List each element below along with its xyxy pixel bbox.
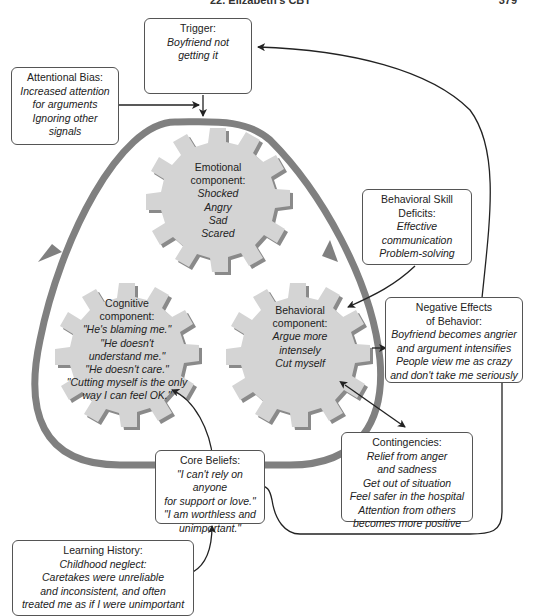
- learning-history-line: and inconsistent, and often: [17, 585, 189, 599]
- negative-effects-title: Negative Effects: [390, 301, 518, 315]
- negative-effects-line: People view me as crazy: [390, 355, 518, 369]
- loop-arrow-left: [38, 244, 62, 262]
- emotional-item: Angry: [168, 201, 268, 214]
- behavioral-item: Cut myself: [255, 357, 345, 370]
- negative-effects-line: and argument intensifies: [390, 342, 518, 356]
- contingencies-line: and sadness: [346, 463, 468, 477]
- trigger-line: getting it: [149, 49, 247, 63]
- attentional-bias-box: Attentional Bias: Increased attention fo…: [11, 67, 119, 145]
- behavioral-gear-label: Behavioral component: Argue more intense…: [255, 304, 345, 370]
- contingencies-line: Feel safer in the hospital: [346, 490, 468, 504]
- cognitive-item: understand me.": [52, 350, 202, 363]
- cognitive-item: "He's blaming me.": [52, 323, 202, 336]
- emotional-gear-label: Emotional component: Shocked Angry Sad S…: [168, 161, 268, 240]
- skill-deficits-line: Effective: [367, 220, 467, 234]
- attentional-bias-title: Attentional Bias:: [16, 71, 114, 85]
- skill-deficits-box: Behavioral Skill Deficits: Effective com…: [362, 189, 472, 265]
- trigger-line: Boyfriend not: [149, 36, 247, 50]
- attentional-bias-line: signals: [16, 125, 114, 139]
- contingencies-line: becomes more positive: [346, 517, 468, 531]
- negative-effects-title: of Behavior:: [390, 315, 518, 329]
- emotional-item: Sad: [168, 214, 268, 227]
- behavioral-item: Argue more: [255, 330, 345, 343]
- contingencies-box: Contingencies: Relief from anger and sad…: [341, 432, 473, 522]
- trigger-title: Trigger:: [149, 22, 247, 36]
- core-beliefs-line: for support or love.": [160, 495, 260, 509]
- core-beliefs-title: Core Beliefs:: [160, 454, 260, 468]
- skill-deficits-title: Deficits:: [367, 207, 467, 221]
- core-beliefs-line: "I can't rely on anyone: [160, 468, 260, 495]
- trigger-box: Trigger: Boyfriend not getting it: [144, 18, 252, 94]
- cognitive-item: "He doesn't: [52, 337, 202, 350]
- cognitive-gear-label: Cognitive component: "He's blaming me." …: [52, 297, 202, 403]
- negative-effects-line: Boyfriend becomes angrier: [390, 328, 518, 342]
- attentional-bias-line: for arguments: [16, 98, 114, 112]
- learning-history-title: Learning History:: [17, 544, 189, 558]
- cognitive-item: "He doesn't care.": [52, 363, 202, 376]
- cognitive-title: component:: [52, 310, 202, 323]
- behavioral-title: component:: [255, 317, 345, 330]
- contingencies-line: Get out of situation: [346, 477, 468, 491]
- core-beliefs-box: Core Beliefs: "I can't rely on anyone fo…: [155, 450, 265, 524]
- core-beliefs-line: "I am worthless and: [160, 508, 260, 522]
- core-beliefs-line: unimportant.": [160, 522, 260, 536]
- attentional-bias-line: Ignoring other: [16, 112, 114, 126]
- negative-effects-line: and don't take me seriously: [390, 369, 518, 383]
- attentional-bias-line: Increased attention: [16, 85, 114, 99]
- learning-history-line: treated me as if I were unimportant: [17, 598, 189, 612]
- contingencies-line: Attention from others: [346, 504, 468, 518]
- learning-history-box: Learning History: Childhood neglect: Car…: [12, 540, 194, 616]
- learning-history-line: Childhood neglect:: [17, 558, 189, 572]
- emotional-title: Emotional: [168, 161, 268, 174]
- cognitive-item: way I can feel OK.": [52, 389, 202, 402]
- negative-effects-box: Negative Effects of Behavior: Boyfriend …: [385, 297, 523, 383]
- skill-deficits-line: communication: [367, 234, 467, 248]
- skill-deficits-title: Behavioral Skill: [367, 193, 467, 207]
- contingencies-line: Relief from anger: [346, 450, 468, 464]
- emotional-item: Scared: [168, 227, 268, 240]
- behavioral-item: intensely: [255, 344, 345, 357]
- loop-arrow-right: [322, 240, 338, 262]
- cognitive-item: "Cutting myself is the only: [52, 376, 202, 389]
- emotional-title: component:: [168, 174, 268, 187]
- skill-deficits-line: Problem-solving: [367, 247, 467, 261]
- cognitive-title: Cognitive: [52, 297, 202, 310]
- learning-history-line: Caretakes were unreliable: [17, 571, 189, 585]
- contingencies-title: Contingencies:: [346, 436, 468, 450]
- emotional-item: Shocked: [168, 187, 268, 200]
- behavioral-title: Behavioral: [255, 304, 345, 317]
